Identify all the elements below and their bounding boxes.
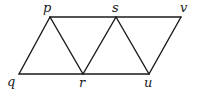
- segment-uv: [149, 17, 181, 74]
- label-p: p: [43, 0, 52, 15]
- geometry-diagram: p s v q r u: [0, 0, 199, 92]
- label-u: u: [144, 75, 152, 90]
- segment-pr: [50, 17, 83, 74]
- segment-qp: [19, 17, 50, 74]
- segment-su: [116, 17, 149, 74]
- label-s: s: [112, 0, 119, 15]
- label-q: q: [7, 74, 15, 89]
- segment-rs: [83, 17, 116, 74]
- label-r: r: [79, 75, 86, 90]
- label-v: v: [180, 0, 188, 15]
